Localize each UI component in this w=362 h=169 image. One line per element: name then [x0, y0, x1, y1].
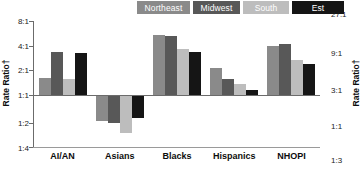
chart-legend: Northeast Midwest South Est — [137, 1, 344, 14]
y-axis-left-tick-0: 8:1 — [5, 17, 29, 26]
bar-group-blacks: Blacks — [148, 21, 205, 148]
bar-group-hispanics: Hispanics — [206, 21, 263, 148]
x-axis-label-blacks: Blacks — [148, 151, 205, 161]
legend-label-est: Est — [312, 3, 325, 13]
y-tick-mark-1 — [29, 46, 33, 47]
bar-group-asians: Asians — [91, 21, 148, 148]
plot-area: AI/AN Asians Bla — [33, 21, 320, 148]
bar-group-nhopi: NHOPI — [263, 21, 320, 148]
legend-item-south[interactable]: South — [243, 1, 289, 14]
y-axis-left-title: Rate Ratio† — [1, 53, 11, 113]
legend-label-south: South — [255, 3, 278, 13]
legend-label-northeast: Northeast — [145, 3, 183, 13]
y-axis-right-tick-3: 1:1 — [331, 122, 357, 131]
y-tick-mark-0 — [29, 21, 33, 22]
y-axis-left-tick-1: 4:1 — [5, 42, 29, 51]
legend-item-midwest[interactable]: Midwest — [193, 1, 240, 14]
y-tick-mark-5 — [29, 147, 33, 148]
y-tick-mark-4 — [29, 123, 33, 124]
y-axis-right-title: Rate Ratio† — [351, 53, 361, 113]
y-axis-right-tick-0: 27:1 — [331, 10, 357, 19]
x-axis-label-hispanics: Hispanics — [206, 151, 263, 161]
x-axis-label-nhopi: NHOPI — [263, 151, 320, 161]
bar-group-ai-an: AI/AN — [34, 21, 91, 148]
x-axis-label-ai-an: AI/AN — [34, 151, 91, 161]
y-axis-left-tick-4: 1:2 — [5, 119, 29, 128]
bar-groups: AI/AN Asians Bla — [34, 21, 320, 148]
y-axis-right-tick-4: 1:3 — [331, 156, 357, 165]
y-tick-mark-2 — [29, 70, 33, 71]
legend-item-northeast[interactable]: Northeast — [137, 1, 190, 14]
y-tick-mark-3 — [29, 95, 33, 96]
y-axis-left-tick-5: 1:4 — [5, 144, 29, 153]
x-axis-label-asians: Asians — [91, 151, 148, 161]
legend-label-midwest: Midwest — [201, 3, 233, 13]
rate-ratio-bar-chart: Northeast Midwest South Est 8:1 4:1 2:1 … — [0, 0, 362, 169]
